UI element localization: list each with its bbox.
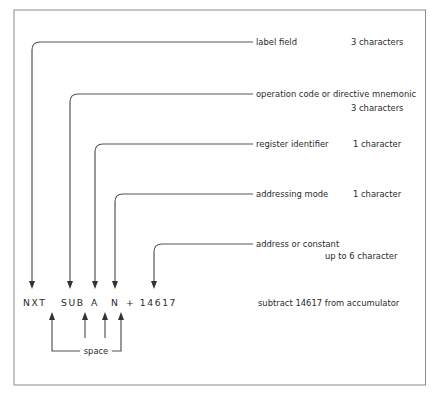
instruction-opcode: SUB [61, 297, 85, 308]
field-size: 3 characters [351, 103, 403, 113]
instruction-example: NXT SUB A N + 14617 subtract 14617 from … [23, 297, 400, 308]
field-size: up to 6 character [325, 251, 398, 261]
arrow-up-icon [49, 312, 55, 320]
instruction-operand: + 14617 [126, 297, 177, 308]
space-label: space [84, 346, 109, 356]
arrow-up-icon [102, 312, 108, 320]
arrow-down-icon [92, 281, 98, 289]
callout-address-or-constant: address or constant up to 6 character [151, 239, 398, 289]
arrow-down-icon [29, 281, 35, 289]
instruction-register: A [91, 297, 99, 308]
callout-register-identifier: register identifier 1 character [92, 139, 402, 289]
space-indicators: space [49, 312, 124, 356]
arrow-down-icon [151, 281, 157, 289]
field-label: address or constant [256, 239, 340, 249]
instruction-mode: N [111, 297, 119, 308]
field-size: 3 characters [351, 37, 403, 47]
arrow-down-icon [112, 281, 118, 289]
instruction-label: NXT [23, 297, 46, 308]
field-size: 1 character [353, 139, 402, 149]
field-label: operation code or directive mnemonic [256, 89, 417, 99]
assembly-instruction-format-diagram: label field 3 characters operation code … [0, 0, 433, 399]
field-label: label field [256, 37, 297, 47]
arrow-up-icon [82, 312, 88, 320]
arrow-down-icon [67, 281, 73, 289]
arrow-up-icon [118, 312, 124, 320]
field-label: addressing mode [256, 189, 328, 199]
field-size: 1 character [353, 189, 402, 199]
field-label: register identifier [256, 139, 329, 149]
instruction-description: subtract 14617 from accumulator [258, 298, 400, 308]
